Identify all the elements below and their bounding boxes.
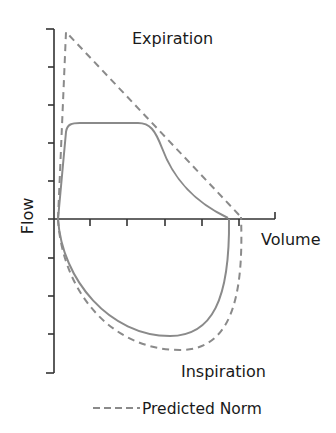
legend: Predicted Norm [93,400,262,418]
y-axis [46,29,54,373]
flow-volume-diagram: Expiration Inspiration Volume Flow Predi… [0,0,336,433]
flow-axis-label: Flow [18,198,37,235]
legend-predicted-norm-label: Predicted Norm [142,400,262,418]
measured-curve [58,123,229,336]
inspiration-label: Inspiration [181,362,266,381]
predicted-norm-curve [58,32,241,350]
volume-axis-label: Volume [261,230,321,249]
expiration-label: Expiration [132,29,213,48]
